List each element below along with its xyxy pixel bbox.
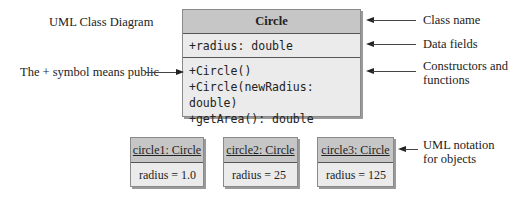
arrow-data-fields-line	[372, 44, 416, 45]
annotation-constructors-line1: Constructors and	[423, 59, 508, 73]
object-value: radius = 25	[224, 163, 297, 187]
arrow-public-line	[146, 72, 178, 73]
annotation-constructors-line2: functions	[423, 73, 470, 87]
object-box-circle1: circle1: Circle radius = 1.0	[130, 137, 204, 187]
arrow-objects-line	[404, 149, 418, 150]
field-radius: +radius: double	[189, 39, 293, 53]
arrow-constructors-line	[372, 71, 416, 72]
annotation-objects-line1: UML notation	[423, 138, 494, 152]
object-value: radius = 125	[318, 163, 393, 187]
object-name: circle1: Circle	[131, 138, 203, 163]
object-value: radius = 1.0	[131, 163, 203, 187]
object-name: circle3: Circle	[318, 138, 393, 163]
method-radius-constructor: +Circle(newRadius: double)	[189, 79, 360, 111]
diagram-title: UML Class Diagram	[49, 15, 153, 29]
class-box-circle: Circle +radius: double +Circle() +Circle…	[182, 9, 361, 117]
arrow-right-icon	[176, 69, 184, 75]
object-box-circle2: circle2: Circle radius = 25	[223, 137, 298, 187]
method-get-area: +getArea(): double	[189, 111, 360, 127]
method-default-constructor: +Circle()	[189, 63, 360, 79]
class-methods: +Circle() +Circle(newRadius: double) +ge…	[183, 58, 360, 127]
class-name: Circle	[183, 10, 360, 34]
object-box-circle3: circle3: Circle radius = 125	[317, 137, 394, 187]
object-name: circle2: Circle	[224, 138, 297, 163]
annotation-data-fields: Data fields	[423, 37, 478, 51]
class-data-fields: +radius: double	[183, 34, 360, 58]
arrow-class-name-line	[372, 20, 416, 21]
annotation-objects-line2: for objects	[423, 152, 476, 166]
annotation-class-name: Class name	[423, 13, 480, 27]
annotation-public-symbol: The + symbol means public	[20, 65, 159, 79]
